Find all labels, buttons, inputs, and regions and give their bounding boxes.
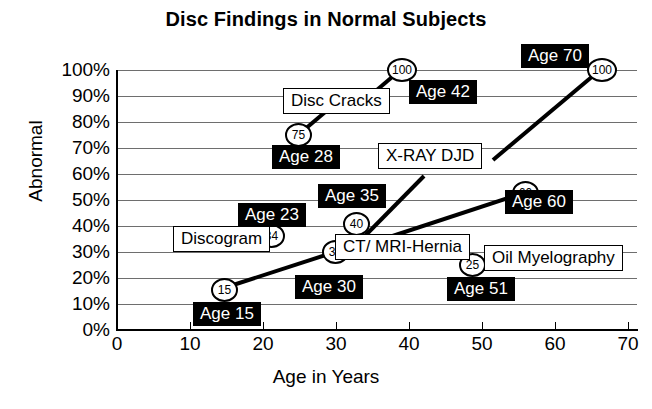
y-tick-100: 100%	[61, 60, 110, 79]
x-axis-line	[116, 329, 638, 331]
callout-ct-mri-hernia[interactable]: CT/ MRI-Hernia	[335, 234, 470, 260]
y-tick-20: 20%	[72, 268, 110, 287]
data-point-15[interactable]: 15	[211, 278, 238, 302]
x-axis-title: Age in Years	[0, 366, 652, 388]
callout-xray-djd[interactable]: X-RAY DJD	[378, 143, 482, 169]
x-tick-0: 0	[97, 334, 137, 353]
callout-oil-myelography[interactable]: Oil Myelography	[484, 245, 623, 271]
x-tick-mark-50	[482, 322, 483, 331]
callout-age-51[interactable]: Age 51	[447, 277, 515, 301]
y-tick-60: 60%	[72, 164, 110, 183]
x-tick-mark-20	[263, 322, 264, 331]
y-tick-10: 10%	[72, 294, 110, 313]
data-point-75[interactable]: 75	[285, 123, 312, 147]
x-tick-20: 20	[243, 334, 283, 353]
x-tick-mark-30	[336, 322, 337, 331]
y-tick-80: 80%	[72, 112, 110, 131]
x-tick-40: 40	[389, 334, 429, 353]
gridline-20	[117, 278, 637, 279]
chart-canvas: Disc Findings in Normal Subjects Abnorma…	[0, 0, 652, 409]
data-point-100-age70[interactable]: 100	[587, 58, 617, 82]
y-tick-90: 90%	[72, 86, 110, 105]
gridline-80	[117, 122, 637, 123]
callout-discogram[interactable]: Discogram	[173, 226, 270, 252]
callout-age-15[interactable]: Age 15	[193, 302, 261, 326]
x-tick-mark-70	[628, 322, 629, 331]
y-axis-tick-labels: 100% 90% 80% 70% 60% 50% 40% 30% 20% 10%…	[0, 70, 110, 330]
x-tick-mark-40	[409, 322, 410, 331]
callout-age-28[interactable]: Age 28	[272, 145, 340, 169]
page-title: Disc Findings in Normal Subjects	[0, 8, 652, 31]
x-tick-50: 50	[462, 334, 502, 353]
y-axis-line	[116, 70, 118, 331]
x-tick-60: 60	[535, 334, 575, 353]
callout-age-60[interactable]: Age 60	[505, 190, 573, 214]
x-tick-mark-60	[555, 322, 556, 331]
x-tick-mark-10	[190, 322, 191, 331]
gridline-100	[117, 70, 637, 71]
callout-age-42[interactable]: Age 42	[409, 80, 477, 104]
gridline-60	[117, 174, 637, 175]
x-tick-70: 70	[608, 334, 648, 353]
y-tick-50: 50%	[72, 190, 110, 209]
data-point-40[interactable]: 40	[343, 212, 370, 236]
data-point-100-age42[interactable]: 100	[387, 58, 417, 82]
callout-age-30[interactable]: Age 30	[295, 275, 363, 299]
callout-age-35[interactable]: Age 35	[318, 184, 386, 208]
y-tick-30: 30%	[72, 242, 110, 261]
y-tick-40: 40%	[72, 216, 110, 235]
y-tick-70: 70%	[72, 138, 110, 157]
callout-age-70[interactable]: Age 70	[521, 44, 589, 68]
callout-age-23[interactable]: Age 23	[238, 203, 306, 227]
gridline-70	[117, 148, 637, 149]
x-tick-30: 30	[316, 334, 356, 353]
x-tick-mark-0	[117, 322, 118, 331]
x-tick-10: 10	[170, 334, 210, 353]
callout-disc-cracks[interactable]: Disc Cracks	[283, 88, 390, 114]
